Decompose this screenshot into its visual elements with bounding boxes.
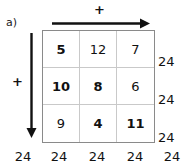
- number-grid: 5 12 7 10 8 6 9 4 11: [42, 30, 155, 143]
- top-axis-operator: +: [94, 3, 105, 16]
- grid-cell-r2c0[interactable]: 9: [43, 105, 80, 142]
- row-sum-column: 24 24 24: [158, 30, 189, 143]
- arrow-down-icon: [26, 33, 37, 138]
- grid-cell-r0c1[interactable]: 12: [80, 31, 117, 68]
- column-sum-row: 24 24 24 24 24: [0, 146, 189, 168]
- row-sum-0: 24: [158, 55, 186, 68]
- row-sum-1: 24: [158, 93, 186, 106]
- grid-cell-r1c2[interactable]: 6: [117, 68, 154, 105]
- problem-label: a): [6, 16, 17, 29]
- column-sum-2: 24: [82, 150, 112, 163]
- grid-cell-r0c0[interactable]: 5: [43, 31, 80, 68]
- column-sum-1: 24: [44, 150, 74, 163]
- left-axis-arrow-group: +: [12, 33, 46, 138]
- grid-cell-r2c2[interactable]: 11: [117, 105, 154, 142]
- grid-cell-r0c2[interactable]: 7: [117, 31, 154, 68]
- left-axis-operator: +: [12, 75, 23, 88]
- grid-cell-r2c1[interactable]: 4: [80, 105, 117, 142]
- column-sum-4: 24: [157, 150, 187, 163]
- arrow-right-icon: [52, 18, 150, 29]
- grid-cell-r1c1[interactable]: 8: [80, 68, 117, 105]
- column-sum-0: 24: [8, 150, 38, 163]
- column-sum-3: 24: [120, 150, 150, 163]
- row-sum-2: 24: [158, 131, 186, 144]
- top-axis-arrow-group: +: [52, 5, 150, 29]
- grid-cell-r1c0[interactable]: 10: [43, 68, 80, 105]
